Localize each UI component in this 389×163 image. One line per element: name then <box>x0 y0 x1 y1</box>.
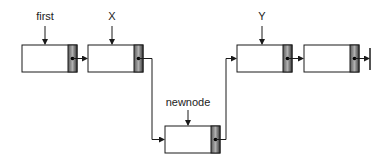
linked-list-diagram: first X Y newnode <box>0 0 389 163</box>
node-first <box>22 45 77 72</box>
label-x: X <box>108 10 116 22</box>
node-newnode <box>165 126 220 153</box>
label-newnode: newnode <box>166 96 211 108</box>
node-y <box>237 45 292 72</box>
node-tail <box>304 45 359 72</box>
label-y: Y <box>258 10 266 22</box>
node-x <box>88 45 143 72</box>
label-first: first <box>36 10 54 22</box>
